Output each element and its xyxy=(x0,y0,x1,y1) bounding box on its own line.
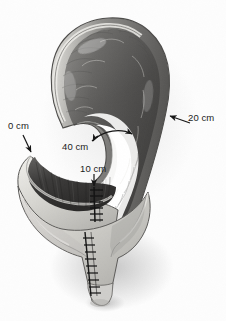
annotation-label-40cm: 40 cm xyxy=(62,142,88,152)
annotation-label-0cm: 0 cm xyxy=(8,121,29,131)
annotation-label-10cm: 10 cm xyxy=(80,164,106,174)
surgical-diagram-figure: 0 cm 20 cm 40 cm 10 cm xyxy=(0,0,226,321)
bowel-illustration xyxy=(0,0,226,321)
annotation-label-20cm: 20 cm xyxy=(188,113,214,123)
